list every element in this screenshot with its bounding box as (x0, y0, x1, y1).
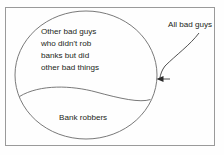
inner-set-label: Bank robbers (59, 113, 107, 122)
callout-label: All bad guys (168, 20, 212, 29)
diagram-canvas: Other bad guys who didn't rob banks but … (0, 0, 224, 155)
outer-set-label-line-1: Other bad guys (41, 27, 96, 36)
outer-set-label-line-3: banks but did (41, 51, 89, 60)
outer-set-label-line-4: other bad things (41, 63, 99, 72)
venn-diagram: Other bad guys who didn't rob banks but … (0, 0, 224, 155)
outer-set-label-line-2: who didn't rob (40, 39, 92, 48)
